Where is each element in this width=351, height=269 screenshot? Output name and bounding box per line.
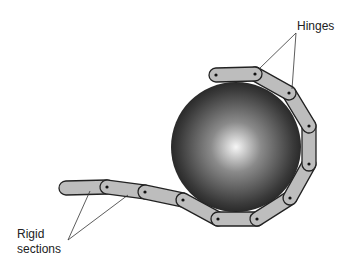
hinge-pin — [287, 91, 290, 94]
hinge-pin — [105, 185, 108, 188]
sections-label: sections — [17, 242, 61, 256]
hinge-pin — [214, 73, 217, 76]
hinge-pin — [216, 217, 219, 220]
hinges-label: Hinges — [297, 19, 334, 33]
hinge-pin — [143, 190, 146, 193]
rigid-label: Rigid — [17, 227, 44, 241]
chain-diagram: Hinges Rigid sections — [0, 0, 351, 269]
rigid-leader-lines — [68, 191, 128, 240]
hinge-pin — [181, 198, 184, 201]
hinge-pin — [288, 196, 291, 199]
hinge-pin — [307, 124, 310, 127]
hinge-pin — [255, 217, 258, 220]
sphere — [171, 82, 301, 212]
hinge-pin — [307, 162, 310, 165]
hinge-pin — [253, 72, 256, 75]
